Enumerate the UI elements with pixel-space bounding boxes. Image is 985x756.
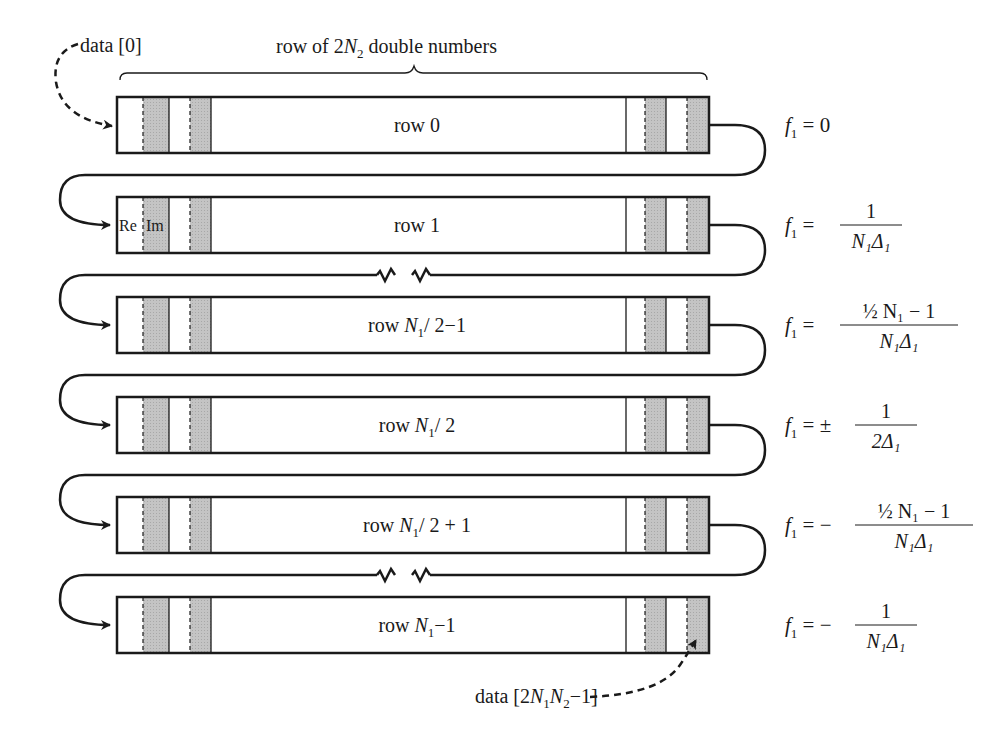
svg-text:N₁Δ₁: N₁Δ₁	[851, 230, 891, 252]
svg-text:½ N₁ − 1: ½ N₁ − 1	[878, 500, 951, 522]
svg-text:f1 = −: f1 = −	[785, 613, 832, 641]
frequency-label: f1 = −½ N₁ − 1N₁Δ₁	[785, 500, 973, 552]
real-part-label: Re	[119, 217, 137, 234]
imag-cell	[645, 397, 666, 453]
array-row: row N1/ 2	[117, 397, 709, 453]
imag-cell	[190, 97, 211, 153]
svg-text:1: 1	[881, 400, 891, 422]
end-pointer-label: data [2N1N2−1]	[475, 685, 598, 711]
imag-cell	[645, 597, 666, 653]
imag-cell	[645, 497, 666, 553]
frequency-label: f1 = −1N₁Δ₁	[785, 600, 917, 652]
imag-cell	[143, 297, 169, 353]
frequency-label: f1 = ±12Δ₁	[785, 400, 917, 452]
imag-cell	[687, 297, 709, 353]
svg-text:N₁Δ₁: N₁Δ₁	[894, 530, 934, 552]
array-row: row N1−1	[117, 597, 709, 653]
imag-cell	[190, 297, 211, 353]
start-pointer-label: data [0]	[80, 34, 142, 56]
row-width-brace	[120, 66, 707, 80]
svg-text:f1 =: f1 =	[785, 213, 814, 241]
imag-cell	[143, 397, 169, 453]
imag-cell	[190, 197, 211, 253]
svg-text:f1 = 0: f1 = 0	[785, 113, 830, 141]
imag-cell	[687, 97, 709, 153]
svg-text:N₁Δ₁: N₁Δ₁	[866, 630, 906, 652]
imag-cell	[190, 497, 211, 553]
frequency-label: f1 =1N₁Δ₁	[785, 200, 902, 252]
row-label: row N1−1	[378, 614, 455, 640]
imag-cell	[687, 397, 709, 453]
svg-text:½ N₁ − 1: ½ N₁ − 1	[863, 300, 936, 322]
fft-row-layout-diagram: row of 2N2 double numbers data [0] row 0…	[0, 0, 985, 756]
imag-cell	[190, 597, 211, 653]
row-width-label: row of 2N2 double numbers	[276, 35, 497, 61]
svg-text:1: 1	[866, 200, 876, 222]
end-pointer-arrow	[590, 640, 696, 697]
imag-cell	[190, 397, 211, 453]
imag-part-label: Im	[146, 217, 164, 234]
array-row: row 1	[117, 197, 709, 253]
imag-cell	[687, 197, 709, 253]
array-row: row N1/ 2 + 1	[117, 497, 709, 553]
imag-cell	[143, 597, 169, 653]
svg-text:f1 = ±: f1 = ±	[785, 413, 831, 441]
imag-cell	[645, 197, 666, 253]
imag-cell	[687, 597, 709, 653]
row-label: row N1/ 2−1	[368, 314, 466, 340]
svg-text:1: 1	[881, 600, 891, 622]
svg-text:f1 = −: f1 = −	[785, 513, 832, 541]
frequency-label: f1 =½ N₁ − 1N₁Δ₁	[785, 300, 958, 352]
array-row: row N1/ 2−1	[117, 297, 709, 353]
svg-text:N₁Δ₁: N₁Δ₁	[879, 330, 919, 352]
imag-cell	[687, 497, 709, 553]
row-label: row N1/ 2 + 1	[363, 514, 471, 540]
row-label: row 0	[394, 114, 440, 136]
start-pointer-arrow	[55, 44, 112, 126]
row-label: row 1	[394, 214, 440, 236]
imag-cell	[645, 97, 666, 153]
imag-cell	[143, 497, 169, 553]
svg-text:f1 =: f1 =	[785, 313, 814, 341]
imag-cell	[645, 297, 666, 353]
frequency-label: f1 = 0	[785, 113, 830, 141]
imag-cell	[143, 97, 169, 153]
array-row: row 0	[117, 97, 709, 153]
row-label: row N1/ 2	[379, 414, 456, 440]
svg-text:2Δ₁: 2Δ₁	[872, 430, 901, 452]
